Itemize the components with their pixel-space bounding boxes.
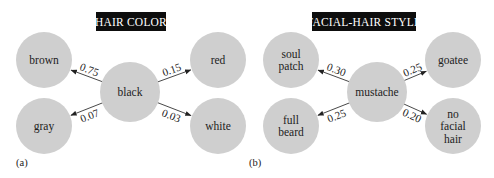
node-brown: brown bbox=[16, 32, 72, 88]
edge-black-to-white: 0.03 bbox=[157, 102, 191, 124]
edge-mustache-to-goatee: 0.25 bbox=[401, 60, 426, 81]
node-label: mustache bbox=[355, 86, 398, 98]
edge-probability-label: 0.03 bbox=[160, 106, 183, 124]
node-label: beard bbox=[278, 126, 304, 138]
edge-mustache-to-no-facial-hair: 0.20 bbox=[401, 104, 427, 125]
node-label: patch bbox=[279, 60, 304, 73]
edge-mustache-to-full-beard: 0.25 bbox=[318, 103, 350, 125]
panel-label: (b) bbox=[249, 157, 262, 169]
node-gray: gray bbox=[16, 98, 72, 154]
node-label: red bbox=[211, 54, 226, 66]
edge-probability-label: 0.25 bbox=[325, 106, 348, 124]
edge-probability-label: 0.15 bbox=[161, 60, 184, 78]
panel-title-text: FACIAL-HAIR STYLE bbox=[307, 16, 422, 28]
node-mustache: mustache bbox=[347, 62, 407, 122]
node-soul-patch: soulpatch bbox=[263, 32, 319, 88]
node-label: full bbox=[283, 114, 299, 126]
diagram: HAIR COLOR0.750.150.070.03blackbrownredg… bbox=[0, 0, 494, 178]
edge-black-to-gray: 0.07 bbox=[71, 103, 103, 125]
node-label: gray bbox=[34, 120, 55, 133]
node-label: black bbox=[118, 86, 143, 98]
node-label: brown bbox=[29, 54, 59, 66]
panel-title: FACIAL-HAIR STYLE bbox=[307, 12, 422, 31]
panel-facial-hair-style: FACIAL-HAIR STYLE0.300.250.250.20mustach… bbox=[249, 12, 481, 169]
edge-black-to-brown: 0.75 bbox=[71, 60, 103, 81]
node-label: facial bbox=[440, 120, 466, 132]
panel-title: HAIR COLOR bbox=[95, 12, 167, 31]
edge-probability-label: 0.75 bbox=[78, 60, 101, 78]
node-label: goatee bbox=[438, 54, 468, 67]
node-label: no bbox=[447, 108, 459, 120]
panel-hair-color: HAIR COLOR0.750.150.070.03blackbrownredg… bbox=[16, 12, 246, 169]
node-black: black bbox=[100, 62, 160, 122]
edge-probability-label: 0.20 bbox=[401, 106, 424, 125]
node-label: soul bbox=[281, 48, 300, 60]
edge-black-to-red: 0.15 bbox=[157, 60, 190, 82]
edge-probability-label: 0.25 bbox=[401, 60, 424, 79]
edge-mustache-to-soul-patch: 0.30 bbox=[318, 60, 350, 81]
node-full-beard: fullbeard bbox=[263, 98, 319, 154]
panel-title-text: HAIR COLOR bbox=[95, 16, 167, 28]
node-label: hair bbox=[444, 133, 462, 145]
node-red: red bbox=[190, 32, 246, 88]
node-no-facial-hair: nofacialhair bbox=[425, 98, 481, 154]
edge-probability-label: 0.30 bbox=[325, 60, 348, 78]
edge-probability-label: 0.07 bbox=[78, 106, 101, 124]
node-goatee: goatee bbox=[425, 32, 481, 88]
panel-label: (a) bbox=[16, 157, 28, 169]
node-label: white bbox=[205, 120, 231, 132]
node-white: white bbox=[190, 98, 246, 154]
